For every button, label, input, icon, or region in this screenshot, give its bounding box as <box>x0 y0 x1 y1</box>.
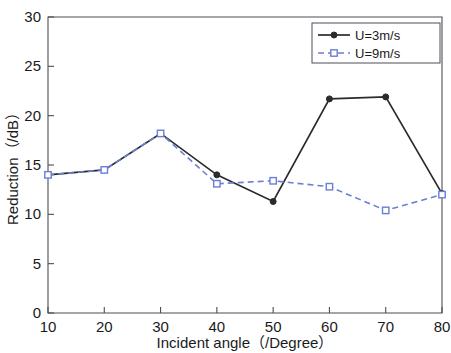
series-line <box>48 97 442 202</box>
x-tick-label: 80 <box>434 318 451 335</box>
data-point <box>45 172 51 178</box>
y-tick-label: 20 <box>24 107 41 124</box>
x-tick-label: 60 <box>321 318 338 335</box>
y-tick-label: 30 <box>24 8 41 25</box>
x-tick-label: 40 <box>209 318 226 335</box>
x-axis-ticks: 1020304050607080 <box>40 307 451 335</box>
x-axis-title: Incident angle（/Degree） <box>157 334 334 351</box>
chart-legend: U=3m/sU=9m/s <box>312 23 440 63</box>
legend-label: U=9m/s <box>355 46 401 61</box>
y-axis-ticks: 051015202530 <box>24 8 54 321</box>
data-series-group <box>45 94 445 214</box>
data-point <box>157 130 163 136</box>
x-tick-label: 70 <box>377 318 394 335</box>
data-point <box>383 207 389 213</box>
data-point <box>214 181 220 187</box>
series-2 <box>45 130 445 213</box>
data-point <box>270 199 276 205</box>
legend-marker <box>331 32 337 38</box>
data-point <box>270 178 276 184</box>
x-tick-label: 30 <box>152 318 169 335</box>
y-tick-label: 5 <box>33 255 41 272</box>
y-tick-label: 15 <box>24 156 41 173</box>
x-tick-label: 20 <box>96 318 113 335</box>
data-point <box>214 172 220 178</box>
data-point <box>326 96 332 102</box>
data-point <box>326 184 332 190</box>
y-tick-label: 25 <box>24 57 41 74</box>
data-point <box>101 167 107 173</box>
chart-figure: 051015202530 1020304050607080 U=3m/sU=9m… <box>0 0 451 353</box>
y-tick-label: 10 <box>24 205 41 222</box>
data-point <box>439 191 445 197</box>
legend-label: U=3m/s <box>355 28 401 43</box>
x-tick-label: 50 <box>265 318 282 335</box>
series-1 <box>45 94 445 205</box>
line-chart: 051015202530 1020304050607080 U=3m/sU=9m… <box>0 0 451 353</box>
legend-marker <box>331 50 337 56</box>
x-tick-label: 10 <box>40 318 57 335</box>
data-point <box>383 94 389 100</box>
y-axis-title: Reduction（/dB） <box>4 105 21 225</box>
